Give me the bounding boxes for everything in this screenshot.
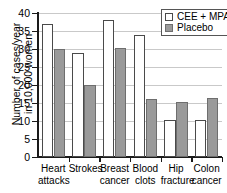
y-axis-title-line-1: Number of cases/year [10, 23, 23, 126]
bar-blood-clots-placebo [146, 99, 158, 157]
y-tick-label: 40 [8, 8, 30, 18]
x-axis-label-hip-fracture: Hipfracture [161, 163, 192, 186]
legend-label-cee-mpa: CEE + MPA [177, 12, 227, 22]
x-tick-mark [99, 157, 100, 162]
y-tick-label: 5 [8, 134, 30, 144]
bar-breast-cancer-cee-mpa [103, 20, 115, 157]
bar-colon-cancer-cee-mpa [195, 120, 207, 157]
bar-breast-cancer-placebo [115, 48, 127, 157]
y-tick-label: 15 [8, 98, 30, 108]
x-tick-mark [222, 157, 223, 162]
x-axis-label-heart-attacks: Heartattacks [38, 163, 69, 186]
x-axis-label-line: fracture [161, 175, 192, 187]
x-axis-label-line: Colon [191, 163, 222, 175]
legend-item-0: CEE + MPA [165, 12, 227, 22]
x-axis-label-line: Breast [99, 163, 130, 175]
y-tick-label: 20 [8, 80, 30, 90]
bar-blood-clots-cee-mpa [134, 35, 146, 157]
bar-heart-attacks-placebo [54, 49, 66, 157]
x-tick-mark [69, 157, 70, 162]
x-axis-label-strokes: Strokes [69, 163, 100, 175]
x-axis-label-line: cancer [99, 175, 130, 187]
y-tick-label: 25 [8, 62, 30, 72]
bar-heart-attacks-cee-mpa [42, 24, 54, 157]
legend-item-1: Placebo [165, 23, 227, 33]
x-axis-label-blood-clots: Bloodclots [130, 163, 161, 186]
y-tick-label: 10 [8, 116, 30, 126]
x-axis-label-breast-cancer: Breastcancer [99, 163, 130, 186]
y-tick-label: 30 [8, 44, 30, 54]
legend-swatch-placebo [165, 24, 173, 32]
legend-label-placebo: Placebo [177, 23, 213, 33]
x-axis-label-line: clots [130, 175, 161, 187]
x-tick-mark [161, 157, 162, 162]
x-axis-label-colon-cancer: Coloncancer [191, 163, 222, 186]
bar-strokes-cee-mpa [72, 53, 84, 157]
x-tick-mark [191, 157, 192, 162]
x-axis-label-line: Blood [130, 163, 161, 175]
x-tick-mark [130, 157, 131, 162]
chart-legend: CEE + MPA Placebo [161, 9, 227, 36]
legend-swatch-cee-mpa [165, 13, 173, 21]
x-axis-label-line: cancer [191, 175, 222, 187]
y-tick-label: 35 [8, 26, 30, 36]
x-axis-label-line: Strokes [69, 163, 100, 175]
bar-hip-fracture-cee-mpa [164, 120, 176, 157]
y-axis-title: Number of cases/year in 10,000 women [9, 0, 35, 150]
bar-chart: Number of cases/year in 10,000 women 051… [0, 0, 227, 193]
bar-strokes-placebo [84, 85, 96, 157]
x-axis-label-line: Hip [161, 163, 192, 175]
x-axis-label-line: attacks [38, 175, 69, 187]
bar-colon-cancer-placebo [207, 98, 219, 157]
y-tick-label: 0 [8, 152, 30, 162]
bar-hip-fracture-placebo [176, 102, 188, 157]
x-axis-label-line: Heart [38, 163, 69, 175]
